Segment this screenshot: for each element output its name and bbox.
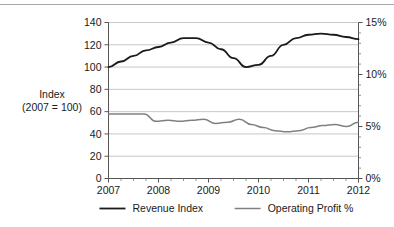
chart-figure: Index (2007 = 100) 020406080100120140 0%… bbox=[0, 0, 394, 227]
x-tick-label: 2009 bbox=[197, 184, 221, 196]
right-tick-label: 5% bbox=[366, 120, 381, 132]
x-tick-label: 2010 bbox=[247, 184, 271, 196]
left-axis-labels: 020406080100120140 bbox=[84, 16, 102, 184]
left-tick-label: 100 bbox=[84, 61, 102, 73]
left-tick-label: 40 bbox=[90, 128, 102, 140]
series-line bbox=[109, 34, 359, 67]
left-tick-label: 60 bbox=[90, 105, 102, 117]
legend-label: Operating Profit % bbox=[268, 202, 354, 214]
right-tick-label: 10% bbox=[366, 68, 387, 80]
right-tick-label: 0% bbox=[366, 172, 381, 184]
left-tick-label: 0 bbox=[96, 172, 102, 184]
left-tick-label: 80 bbox=[90, 83, 102, 95]
left-tick-label: 20 bbox=[90, 150, 102, 162]
x-axis-ticks bbox=[109, 179, 359, 183]
x-tick-label: 2008 bbox=[147, 184, 171, 196]
legend-label: Revenue Index bbox=[132, 202, 203, 214]
left-tick-label: 120 bbox=[84, 39, 102, 51]
left-axis-ticks bbox=[105, 23, 109, 179]
data-series bbox=[109, 34, 359, 132]
x-tick-label: 2007 bbox=[97, 184, 121, 196]
axis-lines bbox=[109, 23, 359, 179]
right-axis-ticks bbox=[359, 23, 363, 179]
gridlines bbox=[109, 23, 359, 179]
left-tick-label: 140 bbox=[84, 16, 102, 28]
right-axis-labels: 0%5%10%15% bbox=[366, 16, 387, 184]
right-tick-label: 15% bbox=[366, 16, 387, 28]
series-line bbox=[109, 114, 359, 132]
x-axis-labels: 200720082009201020112012 bbox=[97, 184, 371, 196]
chart-legend: Revenue IndexOperating Profit % bbox=[99, 202, 353, 214]
x-tick-label: 2011 bbox=[297, 184, 320, 196]
x-tick-label: 2012 bbox=[347, 184, 371, 196]
chart-plot: 020406080100120140 0%5%10%15% 2007200820… bbox=[0, 0, 394, 227]
